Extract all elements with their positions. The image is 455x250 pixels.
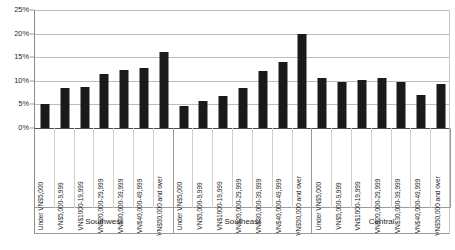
group-axis-cell: Southeast	[174, 208, 313, 234]
bar[interactable]	[100, 74, 109, 128]
bar-slot	[392, 10, 412, 128]
bar-slot	[233, 10, 253, 128]
bar[interactable]	[60, 88, 69, 128]
category-axis-cell: VN$1000-19,999	[75, 128, 95, 208]
bar[interactable]	[258, 71, 267, 128]
bar[interactable]	[437, 84, 446, 128]
bar-slot	[134, 10, 154, 128]
bar[interactable]	[377, 78, 386, 129]
bar-slot	[253, 10, 273, 128]
bar-slot	[75, 10, 95, 128]
y-axis-tick-label: 25%	[14, 6, 29, 14]
category-axis-cell: Under VN$5,000	[312, 128, 332, 208]
y-axis: 0%5%10%15%20%25%	[0, 10, 34, 128]
category-axis-cell: VN$20,000-29,999	[94, 128, 114, 208]
category-axis-cell: VN$30,000-39,999	[114, 128, 134, 208]
bar-slot	[312, 10, 332, 128]
category-axis-cell: VN$1000-19,999	[352, 128, 372, 208]
category-axis-cell: Under VN$5,000	[174, 128, 194, 208]
bar-slot	[352, 10, 372, 128]
bar[interactable]	[238, 88, 247, 128]
bar-slot	[174, 10, 194, 128]
bar-slot	[193, 10, 213, 128]
group-axis-label: Southwest	[85, 217, 122, 226]
category-axis-cell: VN$40,000-49,999	[134, 128, 154, 208]
category-axis-cell: VN$1000-19,999	[213, 128, 233, 208]
category-axis: Under VN$5,000VN$5,000-9,999VN$1000-19,9…	[34, 128, 450, 208]
bar[interactable]	[298, 34, 307, 128]
bar[interactable]	[338, 82, 347, 128]
y-axis-tick-label: 20%	[14, 30, 29, 38]
category-axis-cell: Under VN$5,000	[35, 128, 55, 208]
category-axis-cell: VN$5,000-9,999	[332, 128, 352, 208]
bar-slot	[293, 10, 313, 128]
bars-layer	[35, 10, 449, 128]
category-axis-cell: VN$20,000-29,999	[372, 128, 392, 208]
bar[interactable]	[318, 78, 327, 128]
bar[interactable]	[199, 101, 208, 128]
bar[interactable]	[40, 104, 49, 128]
category-axis-cell: VN$40,000-49,999	[273, 128, 293, 208]
category-axis-cell: VN$5,000-9,999	[55, 128, 75, 208]
category-axis-cell: VN$5,000-9,999	[193, 128, 213, 208]
group-axis: SouthwestSoutheastCentral	[34, 208, 450, 234]
bar-slot	[55, 10, 75, 128]
category-axis-cell: VN$50,000 and over	[293, 128, 313, 208]
bar-slot	[411, 10, 431, 128]
group-axis-label: Central	[369, 217, 395, 226]
bar-slot	[431, 10, 451, 128]
y-axis-tick-label: 15%	[14, 53, 29, 61]
category-axis-cell: VN$30,000-39,999	[392, 128, 412, 208]
bar-slot	[332, 10, 352, 128]
bar-slot	[94, 10, 114, 128]
group-axis-label: Southeast	[224, 217, 260, 226]
bar[interactable]	[159, 52, 168, 128]
category-axis-cell: VN$50,000 and over	[431, 128, 451, 208]
bar-slot	[114, 10, 134, 128]
category-axis-cell: VN$20,000-29,999	[233, 128, 253, 208]
group-axis-cell: Southwest	[35, 208, 174, 234]
bar[interactable]	[120, 70, 129, 128]
bar[interactable]	[278, 62, 287, 128]
category-axis-cell: VN$50,000 and over	[154, 128, 174, 208]
bar-slot	[154, 10, 174, 128]
bar[interactable]	[417, 95, 426, 128]
bar[interactable]	[357, 80, 366, 128]
bar[interactable]	[397, 82, 406, 128]
y-axis-tick-label: 10%	[14, 77, 29, 85]
plot-area	[34, 10, 450, 128]
y-axis-tick-label: 0%	[18, 124, 29, 132]
bar-slot	[35, 10, 55, 128]
group-axis-cell: Central	[312, 208, 451, 234]
bar[interactable]	[80, 87, 89, 128]
bar-slot	[372, 10, 392, 128]
bar-slot	[213, 10, 233, 128]
category-axis-cell: VN$30,000-39,999	[253, 128, 273, 208]
bar[interactable]	[139, 68, 148, 128]
bar[interactable]	[219, 96, 228, 128]
bar-chart: 0%5%10%15%20%25% Under VN$5,000VN$5,000-…	[0, 0, 455, 250]
category-axis-cell: VN$40,000-49,999	[411, 128, 431, 208]
y-axis-tick-label: 5%	[18, 101, 29, 109]
bar[interactable]	[179, 106, 188, 128]
bar-slot	[273, 10, 293, 128]
